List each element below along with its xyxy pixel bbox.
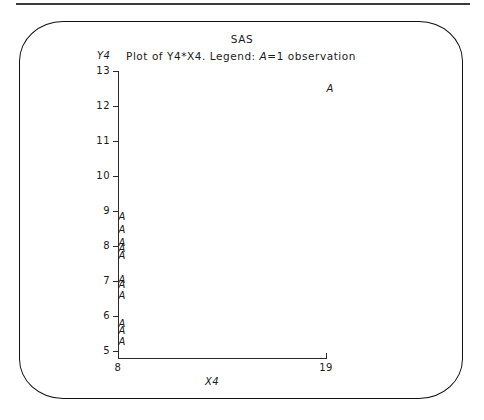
sas-system-title: SAS: [0, 33, 484, 45]
top-divider-rule: [16, 3, 470, 5]
plot-title-suffix: =1 observation: [267, 50, 356, 62]
screen-frame-border: [19, 21, 463, 399]
sas-plot-page: SAS Y4 Plot of Y4*X4. Legend: A=1 observ…: [0, 0, 484, 420]
plot-title: Plot of Y4*X4. Legend: A=1 observation: [126, 50, 356, 62]
y-axis-variable-label: Y4: [97, 50, 110, 61]
plot-title-prefix: Plot of Y4: [126, 50, 181, 62]
plot-title-middle: X4. Legend:: [187, 50, 260, 62]
x-axis-variable-label: X4: [205, 376, 219, 387]
